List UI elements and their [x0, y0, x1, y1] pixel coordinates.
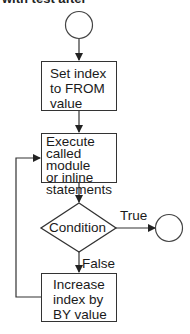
- increment-line-2: index by: [53, 292, 116, 307]
- condition-label: Condition: [49, 220, 106, 235]
- end-terminator-circle: [156, 215, 183, 242]
- init-line-3: value: [50, 96, 116, 111]
- loop-back-connector: [16, 158, 41, 297]
- execute-line-2: called module: [46, 148, 116, 172]
- false-edge-label: False: [82, 256, 115, 271]
- init-line-1: Set index: [50, 66, 116, 81]
- increment-line-3: BY value: [53, 307, 116, 322]
- increment-line-1: Increase: [53, 277, 116, 292]
- init-process-box: Set index to FROM value: [41, 61, 117, 111]
- increment-process-box: Increase index by BY value: [41, 273, 117, 322]
- execute-line-4: statements: [46, 184, 116, 196]
- true-edge-label: True: [120, 208, 147, 223]
- init-line-2: to FROM: [50, 81, 116, 96]
- execute-process-box: Execute called module or inline statemen…: [41, 133, 117, 183]
- start-terminator-circle: [66, 12, 93, 39]
